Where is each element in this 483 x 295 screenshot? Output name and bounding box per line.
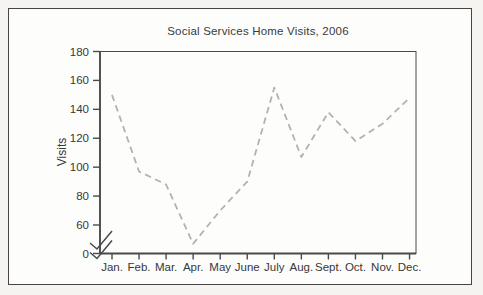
x-tick-label: Aug. [290,261,314,273]
x-tick-label: May [209,261,231,273]
y-tick-label: 60 [76,219,89,231]
y-tick-label: 100 [70,161,89,173]
x-tick-label: Oct. [345,261,366,273]
data-line-series [112,88,410,244]
y-tick-label: 140 [70,103,89,115]
y-tick-label: 180 [70,46,89,58]
x-tick-label: Jan. [101,261,123,273]
plot-box [100,52,416,254]
y-axis-label: Visits [55,138,69,166]
x-tick-label: Apr. [183,261,203,273]
y-tick-label: 120 [70,132,89,144]
x-tick-label: Mar. [155,261,177,273]
axis-break-icon [90,231,112,249]
x-tick-label: Nov. [371,261,394,273]
y-tick-label: 160 [70,74,89,86]
y-tick-label: 0 [83,248,89,260]
x-tick-label: July [264,261,285,273]
y-tick-label: 80 [76,190,89,202]
figure-page: Social Services Home Visits, 2006 060801… [0,0,483,295]
x-tick-label: Dec. [398,261,422,273]
line-chart: 06080100120140160180Jan.Feb.Mar.Apr.MayJ… [0,0,483,295]
x-tick-label: Feb. [128,261,151,273]
x-tick-label: Sept. [315,261,342,273]
x-tick-label: June [235,261,260,273]
